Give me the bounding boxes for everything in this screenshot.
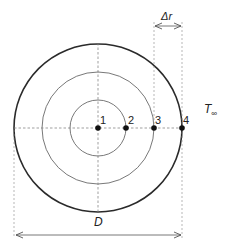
node-3 [151,125,157,131]
diameter-label: D [94,215,103,229]
delta-r-label: Δr [160,10,173,22]
node-2-label: 2 [128,114,134,126]
radial-node-diagram: 1 2 3 4 Δr T∞ D [0,0,226,247]
ambient-temperature-subscript: ∞ [211,109,217,118]
node-1 [95,125,101,131]
node-2 [123,125,129,131]
node-4 [179,125,185,131]
ambient-temperature-label: T∞ [204,102,217,118]
node-4-label: 4 [183,114,189,126]
node-1-label: 1 [100,114,106,126]
node-3-label: 3 [155,114,161,126]
